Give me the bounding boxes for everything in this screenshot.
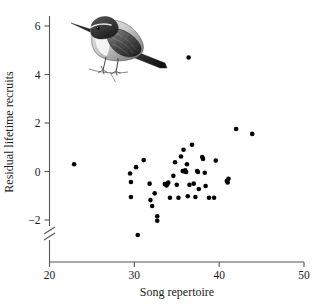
data-point — [155, 214, 160, 219]
bird-eye — [96, 26, 99, 29]
x-tick-label: 20 — [44, 269, 56, 281]
data-point — [155, 218, 160, 223]
data-point — [213, 158, 218, 163]
x-axis-ticks: 20304050 — [44, 262, 310, 281]
data-point — [201, 157, 206, 162]
bird-leg-front — [103, 57, 106, 70]
data-point — [187, 183, 192, 188]
data-point — [128, 171, 133, 176]
y-tick-label: 6 — [35, 20, 41, 32]
y-tick-label: 4 — [35, 69, 41, 81]
data-point — [250, 132, 255, 137]
x-tick-label: 30 — [129, 269, 141, 281]
scatter-plot-figure: −20246 20304050 Song repertoire Residual… — [0, 0, 316, 306]
y-axis-title: Residual lifetime recruits — [2, 71, 16, 193]
y-tick-label: 0 — [35, 166, 41, 178]
data-point — [207, 195, 212, 200]
data-point — [148, 198, 153, 203]
data-point — [168, 195, 173, 200]
y-tick-label: 2 — [35, 117, 41, 129]
data-point — [174, 183, 179, 188]
data-point — [190, 143, 195, 148]
data-point — [173, 160, 178, 165]
y-axis-ticks: −20246 — [28, 20, 49, 226]
bird-eye-highlight — [97, 27, 98, 28]
data-point — [191, 181, 196, 186]
y-axis-break-icon-2 — [44, 233, 55, 240]
data-point — [226, 176, 231, 181]
twig-branch — [110, 73, 116, 83]
data-point — [129, 180, 134, 185]
data-point — [176, 195, 181, 200]
data-point — [171, 174, 176, 179]
data-point — [212, 195, 217, 200]
data-point — [196, 170, 201, 175]
data-point — [166, 180, 171, 185]
twig — [89, 69, 128, 73]
data-point — [193, 195, 198, 200]
data-point — [184, 170, 189, 175]
x-axis-title: Song repertoire — [140, 285, 214, 299]
data-point — [202, 170, 207, 175]
y-tick-label: −2 — [28, 214, 40, 226]
data-point — [234, 127, 239, 132]
data-point — [147, 181, 152, 186]
data-point — [185, 162, 190, 167]
data-point — [150, 204, 155, 209]
data-point — [203, 184, 208, 189]
y-axis-break-icon — [44, 227, 55, 234]
bird-foot-front — [98, 66, 108, 75]
data-point — [179, 154, 184, 159]
data-point — [185, 194, 190, 199]
data-point — [72, 162, 77, 167]
x-tick-label: 40 — [213, 269, 225, 281]
data-point — [135, 233, 140, 238]
x-tick-label: 50 — [298, 269, 310, 281]
data-point — [141, 158, 146, 163]
data-point — [186, 55, 191, 60]
data-point — [152, 191, 157, 196]
bird-illustration — [62, 6, 170, 84]
data-point — [129, 195, 134, 200]
bird-beak — [71, 23, 90, 32]
data-point — [181, 147, 186, 152]
data-point — [197, 187, 202, 192]
data-point — [134, 165, 139, 170]
